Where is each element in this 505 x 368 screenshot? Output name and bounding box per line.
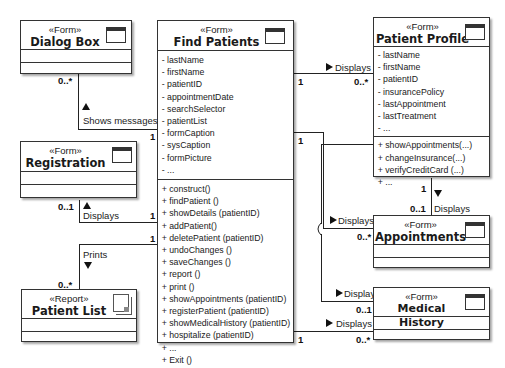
attributes-compartment: [21, 172, 136, 185]
operations-compartment: [22, 332, 136, 344]
displays-registration-line-v: [79, 200, 80, 223]
operation: + ...: [378, 176, 476, 188]
class-name: Registration: [21, 156, 110, 173]
shows-messages-line-h: [78, 129, 157, 130]
shows-messages-label: Shows messages: [83, 115, 157, 126]
operation: + construct(): [162, 183, 279, 195]
stereotype: «Form»: [374, 288, 469, 302]
class-patient-list[interactable]: «Report» Patient List: [21, 289, 137, 342]
prints-line-h: [79, 244, 157, 245]
multiplicity: 0..*: [354, 76, 368, 87]
operation: + showDetails (patientID): [162, 207, 279, 219]
displays-label: Displays: [336, 318, 372, 329]
stereotype: «Form»: [21, 142, 110, 156]
multiplicity: 0..1: [356, 304, 372, 315]
prints-label: Prints: [83, 249, 107, 260]
class-registration[interactable]: «Form» Registration: [20, 141, 137, 198]
operation: + ...: [162, 342, 279, 354]
attribute: - ...: [378, 122, 476, 134]
multiplicity: 0..*: [356, 334, 370, 345]
operation: + showAppointments(...): [378, 139, 476, 151]
class-find-patients[interactable]: «Form» Find Patients - lastName - firstN…: [157, 20, 294, 343]
displays-medical-line-v1: [321, 144, 322, 224]
operation: + verifyCreditCard (...): [378, 164, 476, 176]
displays-medical2-line: [294, 331, 373, 332]
operation: + changeInsurance(...): [378, 152, 476, 164]
class-name: Dialog Box: [21, 35, 109, 52]
window-icon: [465, 294, 485, 310]
class-name: Patient List: [22, 304, 116, 321]
displays-appointments-line-h2: [323, 228, 373, 229]
arrow-right-icon: [326, 63, 333, 71]
stereotype: «Form»: [374, 18, 471, 32]
attribute: - firstName: [162, 66, 279, 78]
attribute: - ...: [162, 164, 279, 176]
stereotype: «Form»: [21, 21, 109, 35]
operation: + showMedicalHistory (patientID): [162, 317, 279, 329]
stereotype: «Report»: [22, 290, 116, 304]
operations-compartment: [21, 185, 136, 197]
multiplicity: 1: [150, 131, 155, 142]
class-appointments[interactable]: «Form» Appointments: [373, 215, 490, 268]
shows-messages-line-v: [78, 74, 79, 130]
displays-label: Displays: [335, 62, 371, 73]
prints-line-v: [79, 244, 80, 289]
multiplicity: 1: [150, 233, 155, 244]
attributes-compartment: - lastName - firstName - patientID - ins…: [374, 47, 489, 137]
displays-medical-line-h2: [321, 301, 373, 302]
attribute: - appointmentDate: [162, 91, 279, 103]
displays-appointments-line-h1: [294, 132, 324, 133]
operation: + saveChanges (): [162, 256, 279, 268]
operations-compartment: [374, 258, 489, 270]
operation: + registerPatient (patientID): [162, 305, 279, 317]
displays-medical-line-v2: [321, 234, 322, 302]
displays-medical-line-h1: [321, 144, 373, 145]
attribute: - searchSelector: [162, 103, 279, 115]
attribute: - formCaption: [162, 127, 279, 139]
class-medical-history[interactable]: «Form» Medical History: [373, 287, 490, 340]
attribute: - formPicture: [162, 152, 279, 164]
attribute: - lastTreatment: [378, 110, 476, 122]
displays-appointments-line-v: [323, 132, 324, 229]
attribute: - lastName: [378, 49, 476, 61]
window-icon: [465, 24, 485, 40]
window-icon: [112, 147, 132, 163]
operation: + showAppointments (patientID): [162, 293, 279, 305]
class-name: Find Patients: [158, 35, 275, 52]
class-dialog-box[interactable]: «Form» Dialog Box: [20, 20, 132, 74]
attribute: - insurancePolicy: [378, 86, 476, 98]
multiplicity: 0..*: [58, 75, 72, 86]
operations-compartment: [21, 63, 131, 75]
attribute: - patientID: [378, 73, 476, 85]
stereotype: «Form»: [158, 21, 275, 35]
displays-registration-line-h: [79, 222, 157, 223]
operations-compartment: + construct() + findPatient () + showDet…: [158, 180, 293, 368]
operation: + Exit (): [162, 354, 279, 366]
class-name: Appointments: [374, 230, 467, 247]
arrow-up-icon: [82, 103, 90, 110]
multiplicity: 0..1: [410, 203, 426, 214]
displays-label: Displays: [338, 215, 374, 226]
document-icon: [113, 294, 129, 312]
multiplicity: 1: [298, 76, 303, 87]
operation: + print (): [162, 281, 279, 293]
attributes-compartment: - lastName - firstName - patientID - app…: [158, 51, 293, 180]
attribute: - patientID: [162, 78, 279, 90]
operation: + hospitalize (patientID): [162, 329, 279, 341]
attribute: - lastName: [162, 54, 279, 66]
class-patient-profile[interactable]: «Form» Patient Profile - lastName - firs…: [373, 17, 490, 177]
arrow-right-icon: [336, 289, 343, 297]
operation: + deletePatient (patientID): [162, 232, 279, 244]
operation: + findPatient (): [162, 195, 279, 207]
operation: + report (): [162, 268, 279, 280]
displays-label: Displays: [434, 203, 470, 214]
operation: + undoChanges (): [162, 244, 279, 256]
operations-compartment: + showAppointments(...) + changeInsuranc…: [374, 137, 489, 190]
attribute: - firstName: [378, 61, 476, 73]
attribute: - lastAppointment: [378, 98, 476, 110]
window-icon: [265, 28, 285, 44]
arrow-down-icon: [434, 190, 442, 197]
displays-label: Displays: [83, 210, 119, 221]
arrow-down-icon: [84, 262, 92, 269]
displays-profile-line: [294, 73, 373, 74]
